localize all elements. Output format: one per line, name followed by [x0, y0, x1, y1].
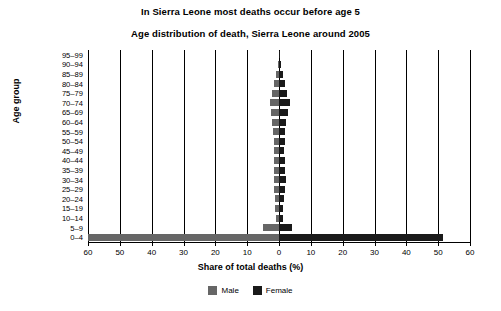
- y-axis-tick-label: 50–54: [62, 137, 83, 146]
- gridline: [247, 50, 248, 242]
- x-axis-tick: [215, 242, 216, 246]
- y-axis-tick-label: 10–14: [62, 214, 83, 223]
- bar-female: [279, 71, 283, 78]
- y-axis-tick-label: 80–84: [62, 79, 83, 88]
- x-axis-tick-label: 60: [466, 248, 475, 257]
- bar-female: [279, 205, 283, 212]
- x-axis-tick: [311, 242, 312, 246]
- gridline: [88, 50, 89, 242]
- y-axis-tick-label: 35–39: [62, 166, 83, 175]
- bar-female: [279, 138, 285, 145]
- x-axis-tick: [88, 242, 89, 246]
- chart-legend: Male Female: [0, 286, 501, 295]
- bar-male: [263, 224, 279, 231]
- x-axis-tick: [375, 242, 376, 246]
- y-axis-tick-label: 40–44: [62, 156, 83, 165]
- bar-female: [279, 186, 285, 193]
- chart-title: In Sierra Leone most deaths occur before…: [0, 6, 501, 17]
- gridline: [470, 50, 471, 242]
- bar-female: [279, 215, 283, 222]
- x-axis-tick: [279, 242, 280, 246]
- y-axis-tick-label: 60–64: [62, 118, 83, 127]
- x-axis-tick-label: 40: [402, 248, 411, 257]
- gridline: [279, 50, 280, 242]
- bar-female: [279, 128, 285, 135]
- bar-female: [279, 234, 443, 241]
- x-axis-tick-label: 10: [306, 248, 315, 257]
- legend-label-male: Male: [221, 286, 238, 295]
- y-axis-tick-label: 70–74: [62, 98, 83, 107]
- x-axis-tick: [438, 242, 439, 246]
- plot-area: [88, 50, 470, 242]
- x-axis-tick-label: 40: [147, 248, 156, 257]
- bar-female: [279, 90, 287, 97]
- bar-female: [279, 224, 292, 231]
- x-axis-title: Share of total deaths (%): [0, 262, 501, 272]
- bar-female: [279, 147, 284, 154]
- bar-female: [279, 51, 280, 58]
- gridline: [152, 50, 153, 242]
- gridline: [406, 50, 407, 242]
- bar-female: [279, 119, 286, 126]
- y-axis-tick-label: 90–94: [62, 60, 83, 69]
- x-axis-tick-label: 0: [277, 248, 281, 257]
- legend-swatch-female: [253, 286, 262, 295]
- bar-female: [279, 167, 285, 174]
- y-axis-tick-label: 20–24: [62, 194, 83, 203]
- x-axis-tick-label: 50: [434, 248, 443, 257]
- bar-male: [272, 90, 279, 97]
- legend-item-male: Male: [208, 286, 238, 295]
- gridline: [120, 50, 121, 242]
- y-axis-tick-label: 0–4: [70, 233, 83, 242]
- y-axis-tick-labels: 95–9990–9485–8980–8475–7970–7465–6960–64…: [0, 50, 86, 242]
- x-axis-tick-label: 50: [115, 248, 124, 257]
- gridline: [375, 50, 376, 242]
- bar-female: [279, 80, 285, 87]
- gridline: [343, 50, 344, 242]
- bar-male: [272, 119, 279, 126]
- bar-female: [279, 61, 281, 68]
- x-axis-tick: [184, 242, 185, 246]
- gridline: [215, 50, 216, 242]
- y-axis-tick-label: 95–99: [62, 50, 83, 59]
- y-axis-tick-label: 5–9: [70, 223, 83, 232]
- y-axis-tick-label: 55–59: [62, 127, 83, 136]
- x-axis-tick-label: 10: [243, 248, 252, 257]
- x-axis-tick: [152, 242, 153, 246]
- x-axis-tick-label: 20: [338, 248, 347, 257]
- legend-item-female: Female: [253, 286, 293, 295]
- gridline: [311, 50, 312, 242]
- y-axis-tick-label: 65–69: [62, 108, 83, 117]
- x-axis-tick: [120, 242, 121, 246]
- y-axis-tick-label: 85–89: [62, 70, 83, 79]
- x-axis-tick: [470, 242, 471, 246]
- x-axis-tick: [247, 242, 248, 246]
- y-axis-tick-label: 45–49: [62, 146, 83, 155]
- legend-label-female: Female: [266, 286, 293, 295]
- x-axis-tick-label: 30: [179, 248, 188, 257]
- x-axis-tick: [406, 242, 407, 246]
- bar-male: [270, 99, 279, 106]
- x-axis-tick-label: 20: [211, 248, 220, 257]
- bar-male: [271, 109, 279, 116]
- y-axis-tick-label: 75–79: [62, 89, 83, 98]
- chart-subtitle: Age distribution of death, Sierra Leone …: [0, 28, 501, 39]
- legend-swatch-male: [208, 286, 217, 295]
- y-axis-tick-label: 30–34: [62, 175, 83, 184]
- y-axis-tick-label: 25–29: [62, 185, 83, 194]
- bar-male: [88, 234, 279, 241]
- bar-female: [279, 176, 286, 183]
- gridline: [184, 50, 185, 242]
- x-axis-tick-label: 60: [84, 248, 93, 257]
- bar-female: [279, 99, 290, 106]
- x-axis-tick: [343, 242, 344, 246]
- bar-female: [279, 157, 285, 164]
- bar-female: [279, 109, 288, 116]
- x-axis-tick-label: 30: [370, 248, 379, 257]
- gridline: [438, 50, 439, 242]
- population-pyramid-chart: In Sierra Leone most deaths occur before…: [0, 0, 501, 311]
- bar-female: [279, 195, 284, 202]
- y-axis-tick-label: 15–19: [62, 204, 83, 213]
